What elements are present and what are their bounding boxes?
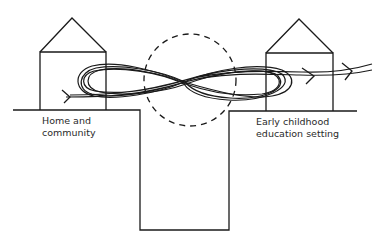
label-home-line1: Home and — [42, 115, 96, 127]
label-home-community: Home and community — [42, 115, 96, 139]
arrow-mid-icon — [302, 68, 314, 84]
transition-paths — [66, 64, 372, 100]
label-ece-line2: education setting — [256, 128, 339, 140]
label-early-childhood: Early childhood education setting — [256, 116, 339, 140]
label-home-line2: community — [42, 127, 96, 139]
arrow-end-icon — [342, 63, 352, 80]
house-right-icon — [266, 19, 333, 111]
label-ece-line1: Early childhood — [256, 116, 339, 128]
